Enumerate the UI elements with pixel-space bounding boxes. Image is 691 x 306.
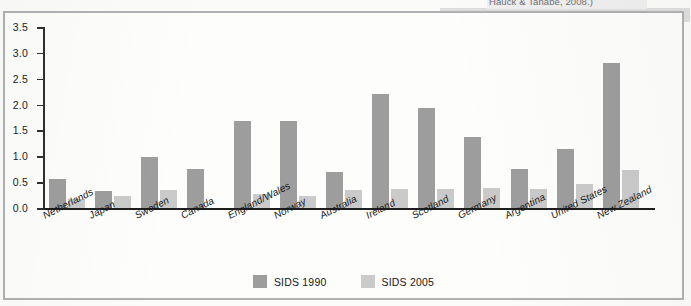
legend-label: SIDS 1990 — [274, 276, 327, 288]
bar-group — [601, 27, 647, 208]
bar-group — [509, 27, 555, 208]
figure-frame: 0.00.51.01.52.02.53.03.5 NetherlandsJapa… — [3, 11, 684, 300]
bar-group — [93, 27, 139, 208]
plot-area: 0.00.51.01.52.02.53.03.5 — [43, 27, 643, 212]
chart-legend: SIDS 1990SIDS 2005 — [5, 275, 682, 288]
bar — [234, 121, 251, 208]
bar-group — [185, 27, 231, 208]
bar — [372, 94, 389, 208]
bar — [464, 137, 481, 208]
y-tick-label: 0.0 — [13, 202, 28, 214]
legend-swatch — [253, 275, 267, 288]
y-tick-label: 2.0 — [13, 99, 28, 111]
bar — [114, 196, 131, 208]
x-axis-labels: NetherlandsJapanSwedenCanadaEngland/Wale… — [43, 211, 655, 271]
y-tick-label: 0.5 — [13, 176, 28, 188]
y-tick-label: 3.5 — [13, 21, 28, 33]
y-tick-label: 2.5 — [13, 73, 28, 85]
caption-fragment-text: Hauck & Tanabe, 2008.) — [487, 0, 647, 9]
bar-group — [139, 27, 185, 208]
bar-group — [47, 27, 93, 208]
bars-layer — [43, 27, 643, 208]
legend-label: SIDS 2005 — [382, 276, 435, 288]
bar-group — [370, 27, 416, 208]
bar — [280, 121, 297, 208]
bar-group — [555, 27, 601, 208]
bar — [418, 108, 435, 208]
bar-group — [232, 27, 278, 208]
bar-group — [324, 27, 370, 208]
legend-swatch — [361, 275, 375, 288]
y-tick-label: 1.5 — [13, 124, 28, 136]
legend-item: SIDS 1990 — [253, 275, 327, 288]
bar-group — [416, 27, 462, 208]
figure-page: Hauck & Tanabe, 2008.) 0.00.51.01.52.02.… — [0, 0, 691, 306]
y-tick-label: 3.0 — [13, 47, 28, 59]
legend-item: SIDS 2005 — [361, 275, 435, 288]
y-tick-label: 1.0 — [13, 150, 28, 162]
bar-group — [462, 27, 508, 208]
